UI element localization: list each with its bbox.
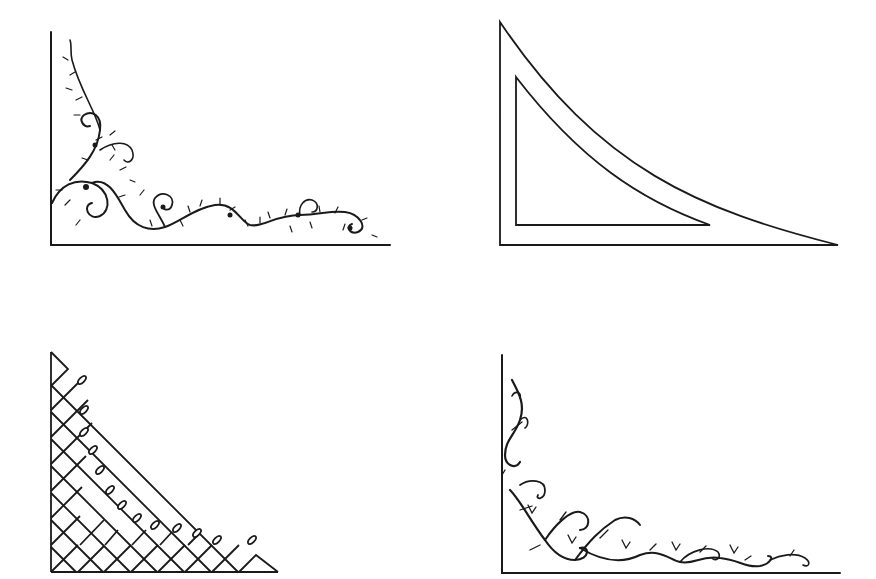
vine-corner-ornament	[51, 32, 390, 245]
scroll-corner-ornament	[502, 355, 840, 573]
triangle-corner-ornament	[500, 22, 838, 245]
lattice-corner-ornament	[51, 352, 278, 572]
ornament-sheet	[0, 0, 876, 579]
